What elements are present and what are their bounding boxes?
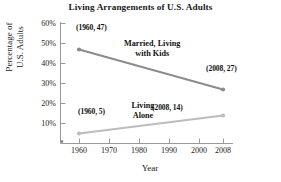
chart-figure: Living Arrangements of U.S. Adults Perce… — [0, 0, 281, 182]
origin-marker — [61, 140, 63, 142]
series-label-married-line-2: with Kids — [124, 49, 180, 59]
annotation-living-alone-1960: (1960, 5) — [78, 107, 105, 116]
x-axis-title: Year — [60, 163, 240, 173]
data-point-married-1960 — [77, 47, 81, 51]
series-label-married-living-with-kids: Married, Living with Kids — [124, 39, 180, 58]
x-axis-ticks — [80, 139, 224, 144]
series-label-married-line-1: Married, Living — [124, 39, 180, 49]
annotation-married-2008: (2008, 27) — [206, 64, 237, 73]
plot-area — [0, 0, 281, 182]
data-point-living-alone-2008 — [221, 113, 225, 117]
series-label-living-alone-line-1: Living — [124, 101, 162, 111]
origin-dot — [61, 140, 63, 142]
series-label-living-alone-line-2: Alone — [124, 111, 162, 121]
y-axis-ticks — [61, 24, 66, 124]
data-point-living-alone-1960 — [77, 131, 81, 135]
annotation-married-1960: (1960, 47) — [76, 23, 107, 32]
data-point-married-2008 — [221, 87, 225, 91]
series-label-living-alone: Living Alone — [124, 101, 162, 120]
